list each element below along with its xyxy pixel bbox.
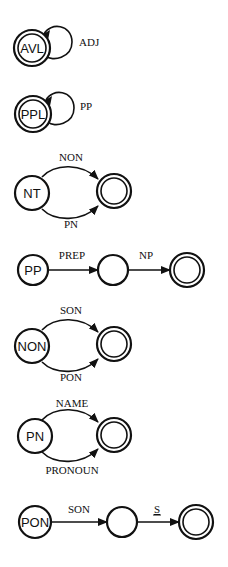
edge-pn <box>42 206 98 218</box>
network-pon: PON SON S <box>19 503 213 539</box>
state-label-pon: PON <box>21 515 49 530</box>
state-pp-final <box>170 253 204 287</box>
state-non-final <box>97 327 131 361</box>
transition-network-diagram: AVL ADJ PPL PP NT NON PN PP PREP NP <box>0 0 228 567</box>
edge-label-non: NON <box>59 151 83 163</box>
edge-pon <box>42 359 98 371</box>
network-pn: PN NAME PRONOUN <box>18 397 131 476</box>
edge-label-son: SON <box>68 503 90 515</box>
network-ppl: PPL PP <box>15 92 92 132</box>
state-pn-final <box>97 418 131 452</box>
edge-label-name: NAME <box>56 397 89 409</box>
edge-name <box>42 410 98 422</box>
network-non: NON SON PON <box>15 304 131 383</box>
edge-label-pon: PON <box>60 371 82 383</box>
edge-label-pp: PP <box>80 100 92 112</box>
edge-pronoun <box>42 449 98 461</box>
edge-label-pn: PN <box>64 218 78 230</box>
edge-label-np: NP <box>139 249 153 261</box>
state-label-ppl: PPL <box>21 107 46 122</box>
edge-son <box>42 320 98 332</box>
state-pon-intermediate <box>107 507 137 537</box>
network-nt: NT NON PN <box>15 151 131 230</box>
state-pon-final <box>179 505 213 539</box>
state-label-non: NON <box>18 339 47 354</box>
state-label-pn: PN <box>26 429 44 444</box>
edge-label-son: SON <box>60 304 82 316</box>
edge-non <box>42 167 98 179</box>
network-pp: PP PREP NP <box>18 249 204 287</box>
state-nt-final <box>97 174 131 208</box>
state-pp-intermediate <box>98 255 128 285</box>
edge-label-s: S <box>154 503 160 515</box>
network-avl: AVL ADJ <box>14 26 100 66</box>
edge-label-prep: PREP <box>59 249 85 261</box>
edge-label-adj: ADJ <box>79 36 100 48</box>
state-label-avl: AVL <box>20 41 44 56</box>
state-label-nt: NT <box>23 186 40 201</box>
edge-label-pronoun: PRONOUN <box>45 464 98 476</box>
state-label-pp: PP <box>24 263 41 278</box>
